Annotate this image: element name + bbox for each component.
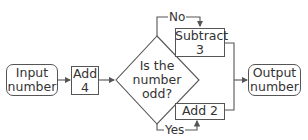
add4-line1: Add <box>71 67 99 81</box>
subtract3-line1: Subtract <box>175 29 225 43</box>
flowchart-canvas: Input number Add 4 Is the number odd? Su… <box>0 0 308 140</box>
subtract3-node-label: Subtract 3 <box>175 29 225 57</box>
input-node-label: Input number <box>6 66 58 94</box>
add4-line2: 4 <box>71 81 99 95</box>
subtract3-line2: 3 <box>175 43 225 57</box>
add4-node-label: Add 4 <box>71 67 99 95</box>
no-edge-label: No <box>168 11 186 23</box>
decision-line2: number <box>126 73 188 87</box>
output-line1: Output <box>248 66 301 80</box>
yes-edge-label: Yes <box>164 124 185 136</box>
decision-node-label: Is the number odd? <box>126 59 188 101</box>
output-line2: number <box>248 80 301 94</box>
output-node-label: Output number <box>248 66 301 94</box>
input-line1: Input <box>6 66 58 80</box>
decision-line3: odd? <box>126 87 188 101</box>
decision-line1: Is the <box>126 59 188 73</box>
add2-line1: Add 2 <box>175 104 225 118</box>
add2-node-label: Add 2 <box>175 104 225 118</box>
input-line2: number <box>6 80 58 94</box>
